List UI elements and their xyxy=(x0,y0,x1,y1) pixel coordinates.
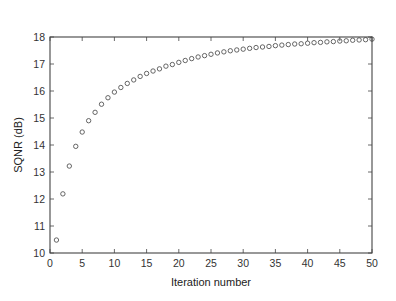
data-point-circle xyxy=(241,47,245,51)
y-tick-label: 14 xyxy=(33,139,45,151)
data-point-circle xyxy=(132,78,136,82)
data-point-circle xyxy=(189,56,193,60)
data-point-circle xyxy=(331,39,335,43)
data-point-circle xyxy=(215,51,219,55)
data-point-circle xyxy=(54,238,58,242)
data-point-circle xyxy=(112,90,116,94)
data-point-circle xyxy=(273,43,277,47)
data-point-circle xyxy=(350,38,354,42)
data-point-circle xyxy=(286,42,290,46)
data-point-circle xyxy=(164,64,168,68)
y-tick-label: 15 xyxy=(33,112,45,124)
data-point-circle xyxy=(157,67,161,71)
y-tick-labels: 101112131415161718 xyxy=(33,31,45,259)
data-point-circle xyxy=(363,38,367,42)
data-point-circle xyxy=(222,50,226,54)
data-point-circle xyxy=(325,40,329,44)
y-tick-label: 17 xyxy=(33,58,45,70)
data-point-circle xyxy=(305,41,309,45)
x-tick-label: 40 xyxy=(302,257,314,269)
x-tick-label: 15 xyxy=(141,257,153,269)
data-point-circle xyxy=(209,52,213,56)
y-tick-label: 11 xyxy=(34,220,45,232)
data-point-circle xyxy=(299,42,303,46)
data-point-circle xyxy=(318,40,322,44)
data-point-circle xyxy=(86,119,90,123)
data-point-circle xyxy=(183,58,187,62)
data-point-circle xyxy=(119,85,123,89)
sqnr-scatter-chart: 05101520253035404550 101112131415161718 … xyxy=(0,0,396,301)
data-point-circle xyxy=(202,53,206,57)
x-tick-labels: 05101520253035404550 xyxy=(47,257,378,269)
x-tick-label: 30 xyxy=(237,257,249,269)
data-point-circle xyxy=(138,74,142,78)
data-point-circle xyxy=(125,81,129,85)
data-points xyxy=(54,37,374,242)
x-tick-label: 45 xyxy=(334,257,346,269)
data-point-circle xyxy=(196,55,200,59)
y-tick-label: 12 xyxy=(33,193,45,205)
data-point-circle xyxy=(260,45,264,49)
data-point-circle xyxy=(61,192,65,196)
data-point-circle xyxy=(170,62,174,66)
x-tick-label: 25 xyxy=(205,257,217,269)
x-tick-label: 0 xyxy=(47,257,53,269)
data-point-circle xyxy=(106,96,110,100)
data-point-circle xyxy=(235,48,239,52)
data-point-circle xyxy=(144,71,148,75)
data-point-circle xyxy=(228,49,232,53)
x-tick-label: 50 xyxy=(366,257,378,269)
axis-ticks xyxy=(50,37,372,253)
data-point-circle xyxy=(93,110,97,114)
y-tick-label: 16 xyxy=(33,85,45,97)
data-point-circle xyxy=(267,44,271,48)
data-point-circle xyxy=(357,38,361,42)
x-tick-label: 5 xyxy=(79,257,85,269)
x-tick-label: 20 xyxy=(173,257,185,269)
data-point-circle xyxy=(254,45,258,49)
data-point-circle xyxy=(312,40,316,44)
plot-frame xyxy=(50,37,372,253)
data-point-circle xyxy=(74,144,78,148)
data-point-circle xyxy=(80,130,84,134)
y-tick-label: 18 xyxy=(33,31,45,43)
data-point-circle xyxy=(99,102,103,106)
x-tick-label: 10 xyxy=(109,257,121,269)
data-point-circle xyxy=(344,39,348,43)
data-point-circle xyxy=(177,60,181,64)
x-axis-title: Iteration number xyxy=(171,276,251,288)
y-tick-label: 10 xyxy=(33,247,45,259)
data-point-circle xyxy=(280,43,284,47)
data-point-circle xyxy=(293,42,297,46)
data-point-circle xyxy=(247,46,251,50)
data-point-circle xyxy=(151,69,155,73)
y-axis-title: SQNR (dB) xyxy=(12,117,24,173)
y-tick-label: 13 xyxy=(33,166,45,178)
x-tick-label: 35 xyxy=(270,257,282,269)
data-point-circle xyxy=(67,164,71,168)
